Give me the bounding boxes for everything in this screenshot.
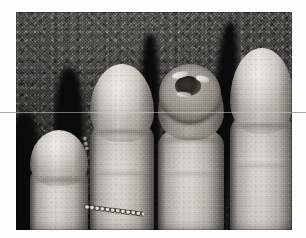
finger-3-distal-crease [161, 138, 222, 145]
finger-2-secondary-crease [93, 172, 152, 179]
subject-finger-1 [30, 130, 88, 230]
finger-4-distal-crease [233, 124, 292, 131]
page-root [0, 0, 306, 238]
subject-finger-4 [230, 48, 292, 230]
scan-line-over-photo [16, 112, 292, 113]
finger-4-tip-texture [230, 48, 292, 134]
finger-4-secondary-crease [233, 164, 292, 171]
finger-2-distal-crease [93, 130, 152, 137]
subject-finger-3 [158, 68, 224, 230]
finger-3-secondary-crease [161, 172, 222, 179]
fingertips-clinical-photo [16, 12, 292, 230]
periungual-nodule [159, 64, 221, 124]
subject-finger-2 [90, 64, 154, 230]
finger-1-distal-crease [32, 178, 85, 185]
lesion-keratin-rim-lower [177, 91, 191, 97]
finger-4-nail-plate [230, 48, 292, 134]
